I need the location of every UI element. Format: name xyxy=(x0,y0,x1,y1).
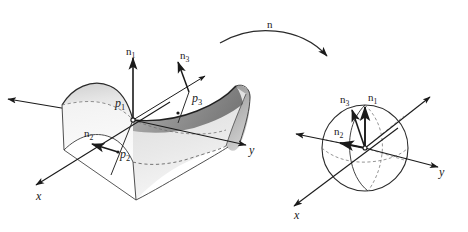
sphere-origin-marker xyxy=(363,146,367,150)
sphere-axis-label-y: y xyxy=(439,166,444,178)
saddle-label-p3: p3 xyxy=(192,92,202,108)
saddle-label-p1-sub: 1 xyxy=(121,103,125,112)
saddle-point-p3-marker xyxy=(176,111,179,114)
unit-sphere-group xyxy=(294,97,438,206)
sphere-label-n3-sub: 3 xyxy=(346,99,350,108)
saddle-label-n3-sub: 3 xyxy=(186,55,190,64)
saddle-label-n1: n1 xyxy=(126,46,135,60)
sphere-label-n1-sub: 1 xyxy=(374,97,378,106)
saddle-label-p1: p1 xyxy=(115,97,125,113)
sphere-label-n3: n3 xyxy=(340,94,349,108)
gauss-map-label: n xyxy=(267,19,273,30)
saddle-normal-n3 xyxy=(178,62,189,92)
saddle-label-n2: n2 xyxy=(84,128,93,142)
saddle-surface-group xyxy=(8,58,250,200)
sphere-axis-label-x: x xyxy=(294,209,299,221)
saddle-point-p1-marker xyxy=(131,118,135,122)
figure-canvas xyxy=(0,0,468,232)
saddle-axis-label-x: x xyxy=(36,190,41,202)
saddle-label-n1-sub: 1 xyxy=(132,51,136,60)
saddle-label-n3: n3 xyxy=(180,50,189,64)
sphere-label-n1: n1 xyxy=(368,92,377,106)
saddle-axis-label-y: y xyxy=(249,144,254,156)
gauss-map-figure: n n1 n2 n3 p1 p2 p3 x y n1 n2 n3 x y xyxy=(0,0,468,232)
saddle-label-p3-sub: 3 xyxy=(198,98,202,107)
sphere-label-n2-sub: 2 xyxy=(340,131,344,140)
saddle-label-n2-sub: 2 xyxy=(90,133,94,142)
saddle-label-p2-sub: 2 xyxy=(126,154,130,163)
gauss-map-arrow xyxy=(220,31,327,56)
saddle-label-p2: p2 xyxy=(120,148,130,164)
sphere-label-n2: n2 xyxy=(334,126,343,140)
